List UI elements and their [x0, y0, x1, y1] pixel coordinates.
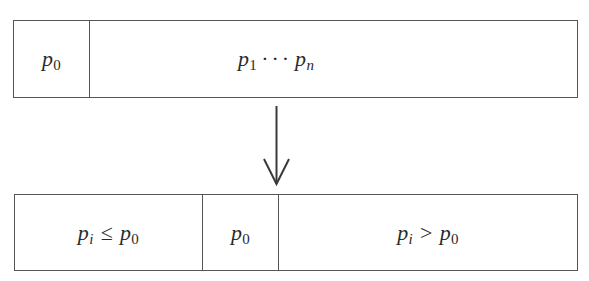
pivot-label-partitioned: p0 [231, 220, 250, 246]
remaining-elements-label: p1···pn [238, 46, 314, 72]
pivot-label: p0 [42, 46, 61, 72]
remaining-elements-cell: p1···pn [89, 21, 577, 97]
input-array: p0 p1···pn [13, 20, 578, 98]
less-equal-partition-cell: pi≤p0 [15, 195, 202, 270]
partitioned-array: pi≤p0 p0 pi>p0 [14, 194, 578, 271]
pivot-cell: p0 [14, 21, 89, 97]
pivot-cell-partitioned: p0 [202, 195, 278, 270]
greater-partition-cell: pi>p0 [278, 195, 577, 270]
less-equal-partition-label: pi≤p0 [78, 220, 139, 246]
greater-partition-label: pi>p0 [397, 220, 459, 246]
down-arrow-icon [262, 104, 292, 188]
